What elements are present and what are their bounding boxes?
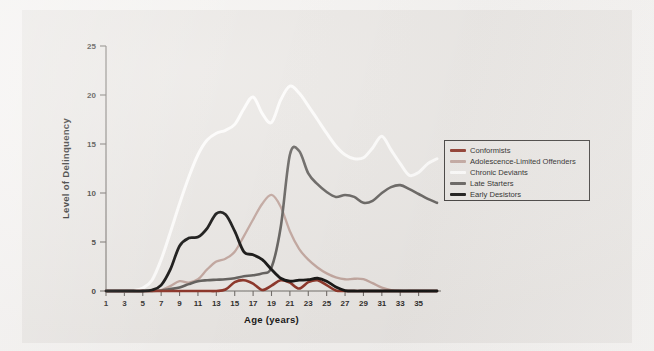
x-axis-tick-label: 1 bbox=[104, 299, 109, 308]
legend-item-label: Chronic Deviants bbox=[470, 168, 528, 177]
legend-swatch-chronic-deviants bbox=[450, 171, 466, 174]
y-axis-tick-label: 5 bbox=[92, 238, 97, 247]
legend-item-early-desistors[interactable]: Early Desistors bbox=[450, 189, 585, 200]
legend-item-label: Conformists bbox=[470, 146, 511, 155]
y-axis-tick-label: 0 bbox=[92, 287, 97, 296]
y-axis-tick-label: 20 bbox=[87, 91, 96, 100]
x-axis-tick-label: 15 bbox=[230, 299, 239, 308]
x-axis-tick-label: 19 bbox=[267, 299, 276, 308]
x-axis-tick-label: 35 bbox=[414, 299, 423, 308]
x-axis-tick-label: 13 bbox=[212, 299, 221, 308]
legend-item-late-starters[interactable]: Late Starters bbox=[450, 178, 585, 189]
y-axis-title: Level of Delinquency bbox=[60, 118, 71, 219]
chart-legend: ConformistsAdolescence-Limited Offenders… bbox=[444, 140, 590, 201]
legend-swatch-late-starters bbox=[450, 182, 466, 185]
legend-item-label: Late Starters bbox=[470, 179, 513, 188]
x-axis-tick-label: 31 bbox=[377, 299, 386, 308]
legend-swatch-adolescence-limited bbox=[450, 160, 466, 163]
figure-root: 0510152025135791113151719212325272931333… bbox=[0, 0, 654, 351]
x-axis-tick-label: 23 bbox=[304, 299, 313, 308]
x-axis-tick-label: 5 bbox=[141, 299, 146, 308]
legend-swatch-conformists bbox=[450, 149, 466, 152]
legend-item-conformists[interactable]: Conformists bbox=[450, 145, 585, 156]
legend-item-label: Adolescence-Limited Offenders bbox=[470, 157, 576, 166]
legend-item-chronic-deviants[interactable]: Chronic Deviants bbox=[450, 167, 585, 178]
x-axis-tick-label: 7 bbox=[159, 299, 164, 308]
legend-swatch-early-desistors bbox=[450, 193, 466, 196]
x-axis-tick-label: 21 bbox=[285, 299, 294, 308]
x-axis-tick-label: 27 bbox=[341, 299, 350, 308]
x-axis-tick-label: 25 bbox=[322, 299, 331, 308]
x-axis-tick-label: 11 bbox=[194, 299, 203, 308]
x-axis-tick-label: 3 bbox=[122, 299, 127, 308]
y-axis-tick-label: 25 bbox=[87, 42, 96, 51]
x-axis-tick-label: 9 bbox=[177, 299, 182, 308]
legend-item-adolescence-limited-offenders[interactable]: Adolescence-Limited Offenders bbox=[450, 156, 585, 167]
x-axis-tick-label: 29 bbox=[359, 299, 368, 308]
legend-item-label: Early Desistors bbox=[470, 190, 521, 199]
y-axis-tick-label: 10 bbox=[87, 189, 96, 198]
y-axis-tick-label: 15 bbox=[87, 140, 96, 149]
series-line-early-desistors bbox=[106, 212, 437, 291]
series-line-adolescence-limited-offenders bbox=[106, 195, 437, 291]
x-axis-tick-label: 33 bbox=[396, 299, 405, 308]
x-axis-title: Age (years) bbox=[244, 314, 299, 325]
x-axis-tick-label: 17 bbox=[249, 299, 258, 308]
